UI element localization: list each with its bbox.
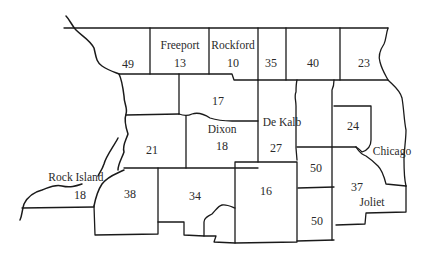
- region-17-value: 17: [212, 95, 224, 107]
- region-rockford-value: 10: [227, 57, 239, 69]
- region-49-value: 49: [122, 58, 134, 70]
- region-freeport-value: 13: [174, 57, 186, 69]
- river-west-upper: [66, 16, 128, 170]
- row-1-bottom: [119, 74, 388, 80]
- divider-blank-24: [332, 80, 334, 240]
- divider-50a-50b: [298, 187, 334, 188]
- region-freeport-city: Freeport: [161, 40, 200, 52]
- region-joliet-city: Joliet: [360, 197, 385, 209]
- district-map: 49 Freeport 13 Rockford 10 35 40 23 17 2…: [0, 0, 429, 256]
- boundary-rock-island-bottom: [22, 207, 94, 208]
- border-east-top: [379, 28, 406, 186]
- region-37-value: 37: [351, 181, 363, 193]
- region-dixon-value: 18: [216, 140, 228, 152]
- box-streator: [235, 162, 297, 243]
- shoreline-rock-island: [20, 184, 82, 220]
- region-dekalb-value: 27: [270, 142, 282, 154]
- boundary-34-notch: [204, 236, 235, 243]
- boundary-17-dixon: [179, 113, 258, 121]
- region-rock-island-value: 18: [74, 189, 86, 201]
- region-50b-value: 50: [311, 215, 323, 227]
- region-chicago-city: Chicago: [373, 146, 411, 158]
- region-35-value: 35: [265, 57, 277, 69]
- region-streator-value: 16: [260, 185, 272, 197]
- row-2-left-bottom: [126, 114, 179, 115]
- region-50a-value: 50: [310, 162, 322, 174]
- region-rockford-city: Rockford: [211, 40, 254, 52]
- region-rock-island-city: Rock Island: [48, 172, 103, 184]
- region-21-value: 21: [146, 144, 158, 156]
- region-23-value: 23: [358, 57, 370, 69]
- region-38-value: 38: [124, 188, 136, 200]
- boundary-34-bottom: [158, 205, 235, 236]
- region-dixon-city: Dixon: [208, 124, 237, 136]
- region-24-value: 24: [347, 120, 359, 132]
- region-40-value: 40: [307, 57, 319, 69]
- region-34-value: 34: [189, 190, 201, 202]
- region-dekalb-city: De Kalb: [263, 117, 302, 129]
- box-50b-bottom: [297, 240, 334, 241]
